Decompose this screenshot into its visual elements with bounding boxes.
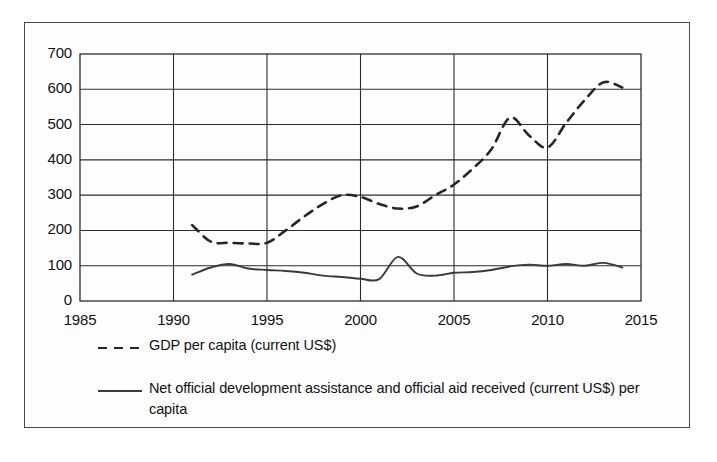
data-series-group [192, 82, 622, 281]
x-tick-label: 1985 [50, 311, 110, 328]
x-tick-label: 2005 [424, 311, 484, 328]
y-tick-label: 600 [28, 79, 72, 96]
line-chart [25, 23, 691, 323]
x-tick-label: 1990 [144, 311, 204, 328]
legend-item-aid: Net official development assistance and … [25, 378, 691, 420]
series-line-gdp [192, 82, 622, 244]
y-tick-label: 500 [28, 115, 72, 132]
legend-label-gdp: GDP per capita (current US$) [149, 335, 336, 356]
y-tick-label: 0 [28, 291, 72, 308]
x-tick-label: 2000 [331, 311, 391, 328]
y-tick-label: 100 [28, 256, 72, 273]
series-line-aid [192, 257, 622, 281]
y-tick-label: 200 [28, 220, 72, 237]
y-tick-label: 700 [28, 44, 72, 61]
chart-plot-area: 0100200300400500600700 19851990199520002… [25, 23, 691, 323]
figure-frame: 0100200300400500600700 19851990199520002… [24, 22, 690, 428]
x-tick-label: 2015 [611, 311, 671, 328]
chart-legend: GDP per capita (current US$) Net officia… [25, 335, 691, 442]
dashed-line-marker [97, 341, 143, 355]
y-tick-label: 400 [28, 150, 72, 167]
solid-line-marker [97, 384, 143, 398]
legend-label-aid: Net official development assistance and … [149, 378, 669, 420]
y-tick-label: 300 [28, 185, 72, 202]
x-tick-label: 1995 [237, 311, 297, 328]
legend-item-gdp: GDP per capita (current US$) [25, 335, 691, 356]
x-tick-label: 2010 [518, 311, 578, 328]
